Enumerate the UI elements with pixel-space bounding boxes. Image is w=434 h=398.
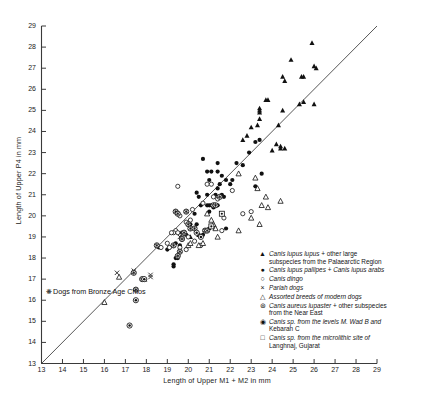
- data-point: [282, 146, 287, 151]
- series-open-triangle: [102, 171, 283, 305]
- cross-x-icon: ×: [258, 284, 267, 292]
- data-point: [257, 106, 262, 111]
- data-point: [216, 169, 220, 173]
- data-point: [249, 215, 254, 220]
- y-tick-label: 25: [22, 106, 36, 113]
- data-point: [176, 184, 180, 188]
- data-point: [211, 195, 215, 199]
- data-point: [190, 207, 194, 211]
- data-point: [115, 271, 119, 275]
- y-axis-ticks: [42, 26, 47, 364]
- data-point: [201, 201, 205, 205]
- data-point: [228, 182, 232, 186]
- data-point: [169, 231, 173, 235]
- series-cross-x: [115, 235, 182, 279]
- data-point: [230, 178, 234, 182]
- y-tick-label: 19: [22, 233, 36, 240]
- x-tick-label: 15: [75, 366, 91, 373]
- data-point: [131, 270, 136, 275]
- circle-star-icon: ❋: [44, 288, 53, 296]
- y-tick-label: 27: [22, 64, 36, 71]
- filled-circle-icon: ●: [258, 266, 267, 274]
- data-point: [216, 186, 220, 190]
- data-point: [192, 212, 196, 216]
- data-point: [195, 191, 199, 195]
- legend: ▲Canis lupus lupus + other largesubspeci…: [258, 250, 434, 351]
- y-tick-label: 18: [22, 254, 36, 261]
- data-point: [282, 78, 287, 83]
- data-point: [127, 323, 132, 328]
- legend-item-label: Canis sp. from the levels M. Wad B and: [269, 318, 434, 326]
- data-point: [133, 298, 138, 303]
- data-point: [253, 175, 258, 180]
- x-tick-label: 13: [34, 366, 50, 373]
- legend-item: ●Canis lupus pallipes + Canis lupus arab…: [258, 266, 434, 274]
- data-point: [181, 230, 186, 235]
- legend-item: ▲Canis lupus lupus + other largesubspeci…: [258, 250, 434, 265]
- data-point: [236, 171, 241, 176]
- data-point: [241, 212, 245, 216]
- legend-item-label: Assorted breeds of modern dogs: [269, 293, 434, 301]
- data-point: [192, 239, 196, 243]
- data-point: [215, 234, 220, 239]
- data-point: [209, 224, 214, 229]
- data-point: [236, 228, 241, 233]
- y-tick-label: 14: [22, 338, 36, 345]
- data-point: [198, 234, 203, 239]
- series-filled-circle: [157, 138, 264, 269]
- data-point: [249, 125, 254, 130]
- data-point: [280, 108, 285, 113]
- x-tick-label: 23: [243, 366, 259, 373]
- x-tick-label: 26: [306, 366, 322, 373]
- x-axis-title: Length of Upper M1 + M2 in mm: [0, 376, 434, 385]
- data-point: [253, 140, 257, 144]
- legend-overlay-note-text: Dogs from Bronze Age Chios: [53, 287, 146, 296]
- legend-item-label: Canis dingo: [269, 275, 434, 283]
- x-tick-label: 25: [285, 366, 301, 373]
- data-point: [154, 243, 159, 248]
- legend-item: □Canis sp. from the microlithic site ofL…: [258, 334, 434, 349]
- legend-item-label-line2: Kebarah C: [269, 325, 434, 333]
- data-point: [175, 253, 180, 258]
- legend-item-label-line2: Langhnaj, Gujarat: [269, 342, 434, 350]
- data-point: [260, 172, 264, 176]
- y-tick-label: 28: [22, 43, 36, 50]
- data-point: [241, 163, 245, 167]
- legend-item-label: Canis aureus lupaster + other subspecies: [269, 302, 434, 310]
- y-tick-label: 15: [22, 317, 36, 324]
- data-point: [240, 137, 245, 142]
- data-point: [201, 157, 205, 161]
- data-point: [234, 161, 238, 165]
- legend-item: ×Pariah dogs: [258, 284, 434, 292]
- data-point: [224, 178, 228, 182]
- x-tick-label: 14: [54, 366, 70, 373]
- data-point: [280, 74, 285, 79]
- legend-item-label: Pariah dogs: [269, 284, 434, 292]
- x-tick-label: 18: [138, 366, 154, 373]
- data-point: [274, 142, 279, 147]
- y-tick-label: 22: [22, 170, 36, 177]
- data-point: [224, 226, 228, 230]
- y-tick-label: 13: [22, 360, 36, 367]
- y-tick-label: 20: [22, 212, 36, 219]
- data-point: [257, 116, 262, 121]
- legend-item-label-line2: from the Near East: [269, 309, 434, 317]
- data-point: [220, 174, 224, 178]
- data-point: [209, 182, 213, 186]
- legend-item-label-line2: subspecies from the Palaearctic Region: [269, 258, 434, 266]
- legend-item-label: Canis sp. from the microlithic site of: [269, 334, 434, 342]
- data-point: [289, 57, 294, 62]
- y-tick-label: 16: [22, 296, 36, 303]
- data-point: [218, 182, 222, 186]
- y-tick-label: 24: [22, 127, 36, 134]
- data-point: [184, 209, 189, 214]
- y-tick-label: 21: [22, 191, 36, 198]
- data-point: [244, 133, 249, 138]
- y-tick-label: 23: [22, 149, 36, 156]
- data-point: [184, 247, 188, 251]
- data-point: [247, 150, 251, 154]
- open-triangle-icon: △: [258, 293, 267, 301]
- data-point: [263, 194, 268, 199]
- x-tick-label: 28: [348, 366, 364, 373]
- x-tick-label: 24: [264, 366, 280, 373]
